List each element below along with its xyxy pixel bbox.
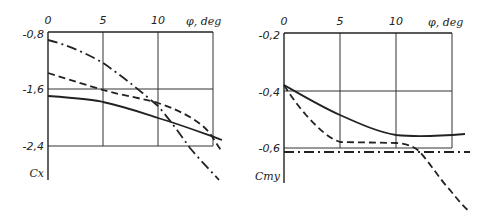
series-dashed bbox=[48, 73, 222, 152]
y-axis-label: Cx bbox=[29, 167, 44, 180]
y-tick-2: -0,4 bbox=[259, 86, 280, 99]
y-tick-1: -0,8 bbox=[23, 28, 44, 41]
x-tick-10: 10 bbox=[389, 15, 403, 28]
x-tick-5: 5 bbox=[337, 15, 344, 28]
figure: 0 5 10 φ, deg -0,8 -1,6 -2,4 Cx 0 5 10 φ… bbox=[0, 0, 490, 220]
y-tick-2: -1,6 bbox=[23, 83, 44, 96]
chart-cmy: 0 5 10 φ, deg -0,2 -0,4 -0,6 Cmy bbox=[255, 15, 470, 212]
series-solid bbox=[48, 96, 222, 140]
x-tick-0: 0 bbox=[45, 14, 52, 27]
x-tick-0: 0 bbox=[281, 15, 288, 28]
x-axis-label: φ, deg bbox=[428, 16, 463, 29]
y-tick-1: -0,2 bbox=[259, 29, 280, 42]
x-axis-label: φ, deg bbox=[186, 15, 221, 28]
y-tick-3: -0,6 bbox=[259, 142, 280, 155]
x-tick-5: 5 bbox=[100, 14, 107, 27]
x-tick-10: 10 bbox=[151, 14, 165, 27]
y-tick-3: -2,4 bbox=[23, 140, 44, 153]
chart-cx: 0 5 10 φ, deg -0,8 -1,6 -2,4 Cx bbox=[23, 14, 222, 180]
y-axis-label: Cmy bbox=[255, 170, 281, 183]
series-solid bbox=[284, 85, 465, 136]
